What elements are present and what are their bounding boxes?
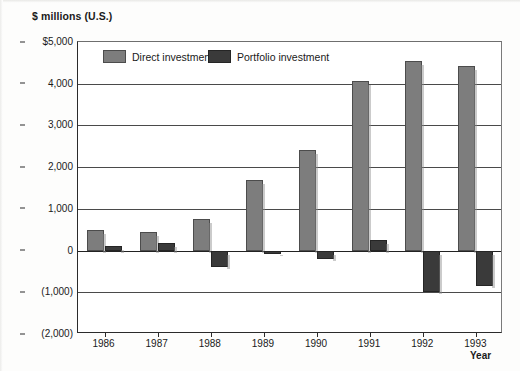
chart-figure: $ millions (U.S.) Year $5,0004,0003,0002… xyxy=(0,0,520,371)
bar-portfolio-investment xyxy=(264,251,281,254)
y-tick-mark xyxy=(20,250,25,251)
bar-direct-investment xyxy=(405,61,422,251)
x-tick-mark xyxy=(370,332,371,337)
bar-portfolio-investment xyxy=(105,246,122,250)
portfolio-swatch xyxy=(208,50,231,63)
y-tick-mark xyxy=(20,41,25,42)
bar-portfolio-investment xyxy=(158,243,175,250)
y-tick-label: (2,000) xyxy=(25,328,73,339)
plot-area: Direct investmentPortfolio investment xyxy=(77,41,502,333)
scan-artifact-top xyxy=(0,0,520,3)
y-tick-label: 0 xyxy=(25,244,73,255)
x-tick-mark xyxy=(317,332,318,337)
y-axis-tick-labels: $5,0004,0003,0002,0001,0000(1,000)(2,000… xyxy=(21,41,73,333)
y-tick-mark xyxy=(20,166,25,167)
bar-direct-investment xyxy=(140,232,157,251)
legend-label: Direct investment xyxy=(132,51,213,63)
y-tick-mark xyxy=(20,333,25,334)
bar-direct-investment xyxy=(299,150,316,250)
x-tick-mark xyxy=(105,332,106,337)
bar-direct-investment xyxy=(458,66,475,251)
bar-shadow xyxy=(421,65,424,253)
bar-portfolio-investment xyxy=(476,251,493,286)
x-tick-label: 1989 xyxy=(241,338,285,349)
bar-shadow xyxy=(174,247,177,252)
gridline xyxy=(78,84,501,85)
gridline xyxy=(78,125,501,126)
scan-artifact-left xyxy=(0,0,3,371)
bar-shadow xyxy=(227,255,230,270)
y-tick-label: $5,000 xyxy=(25,36,73,47)
y-tick-label: 3,000 xyxy=(25,119,73,130)
x-tick-mark xyxy=(476,332,477,337)
x-tick-label: 1987 xyxy=(135,338,179,349)
y-tick-mark xyxy=(20,208,25,209)
bar-shadow xyxy=(386,244,389,252)
chart-legend: Direct investmentPortfolio investment xyxy=(78,42,501,76)
y-tick-label: 4,000 xyxy=(25,77,73,88)
y-tick-label: (1,000) xyxy=(25,286,73,297)
bar-shadow xyxy=(439,255,442,295)
gridline xyxy=(78,292,501,293)
x-tick-mark xyxy=(423,332,424,337)
bar-direct-investment xyxy=(193,219,210,250)
x-tick-label: 1990 xyxy=(294,338,338,349)
bar-shadow xyxy=(368,85,371,253)
y-tick-mark xyxy=(20,124,25,125)
gridline xyxy=(78,209,501,210)
bar-shadow xyxy=(333,255,336,261)
x-tick-label: 1988 xyxy=(188,338,232,349)
bar-shadow xyxy=(209,223,212,252)
x-tick-mark xyxy=(264,332,265,337)
y-tick-label: 1,000 xyxy=(25,202,73,213)
x-tick-label: 1992 xyxy=(400,338,444,349)
bar-direct-investment xyxy=(87,230,104,251)
y-tick-mark xyxy=(20,291,25,292)
bar-shadow xyxy=(280,255,283,256)
legend-item: Portfolio investment xyxy=(208,50,329,63)
bar-shadow xyxy=(315,154,318,252)
legend-label: Portfolio investment xyxy=(237,51,329,63)
y-tick-label: 2,000 xyxy=(25,161,73,172)
direct-swatch xyxy=(103,50,126,63)
bar-shadow xyxy=(492,255,495,288)
x-tick-mark xyxy=(158,332,159,337)
x-tick-label: 1993 xyxy=(453,338,497,349)
bar-shadow xyxy=(121,250,124,252)
x-axis-tick-labels: 19861987198819891990199119921993 xyxy=(77,338,502,354)
legend-item: Direct investment xyxy=(103,50,213,63)
bar-shadow xyxy=(262,184,265,253)
bar-portfolio-investment xyxy=(423,251,440,293)
bar-shadow xyxy=(474,70,477,253)
bar-portfolio-investment xyxy=(370,240,387,250)
x-tick-label: 1991 xyxy=(347,338,391,349)
x-tick-label: 1986 xyxy=(82,338,126,349)
bar-direct-investment xyxy=(352,81,369,251)
gridline xyxy=(78,167,501,168)
bar-direct-investment xyxy=(246,180,263,251)
bar-portfolio-investment xyxy=(317,251,334,259)
y-axis-title: $ millions (U.S.) xyxy=(32,10,112,22)
y-tick-mark xyxy=(20,83,25,84)
x-tick-mark xyxy=(211,332,212,337)
bar-portfolio-investment xyxy=(211,251,228,268)
